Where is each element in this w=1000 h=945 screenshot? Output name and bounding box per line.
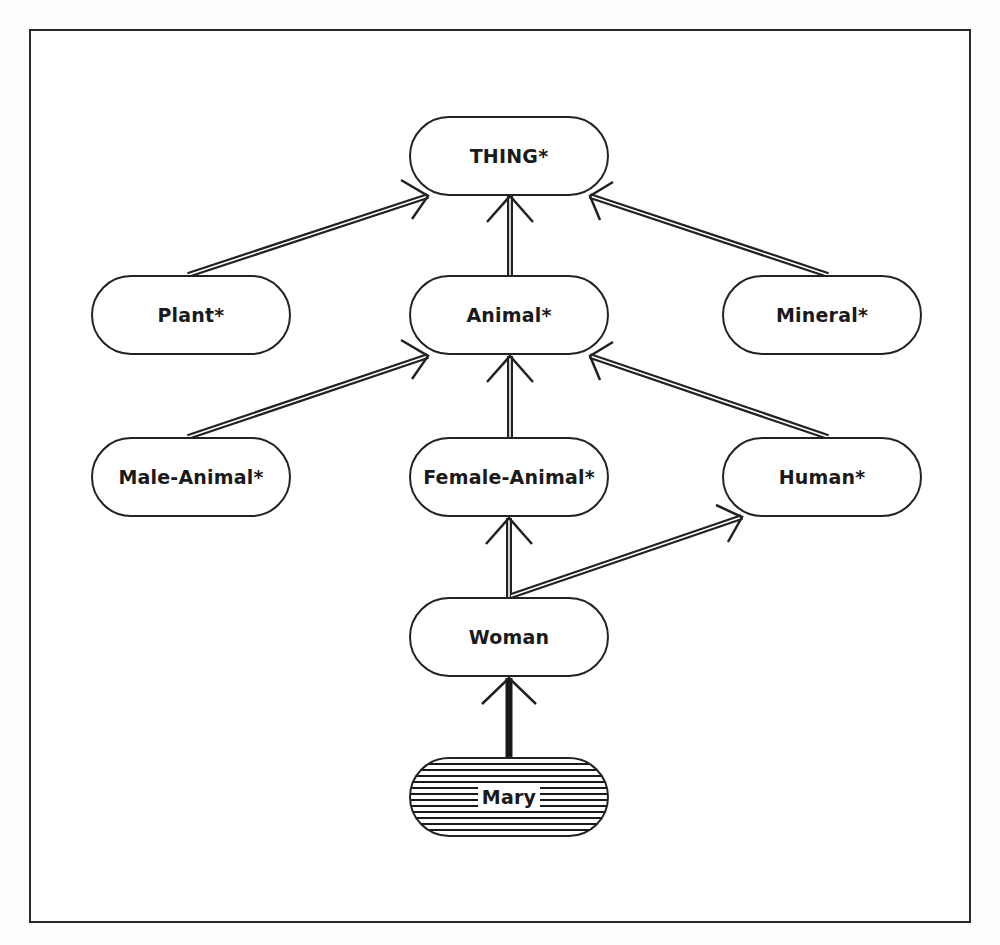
edge-female-animal-to-animal [487, 356, 533, 437]
edge-woman-to-female-animal [486, 518, 532, 597]
edge-mineral-to-thing [590, 182, 828, 275]
node-label: Mineral* [776, 304, 868, 326]
edge-mary-to-woman [482, 678, 536, 757]
node-label: THING* [470, 145, 549, 167]
node-label: Plant* [157, 304, 224, 326]
node-label: Animal* [466, 304, 551, 326]
node-mary[interactable]: Mary [409, 757, 609, 837]
edge-human-to-animal [590, 342, 828, 437]
node-plant[interactable]: Plant* [91, 275, 291, 355]
node-female-animal[interactable]: Female-Animal* [409, 437, 609, 517]
node-mineral[interactable]: Mineral* [722, 275, 922, 355]
node-thing[interactable]: THING* [409, 116, 609, 196]
node-label: Male-Animal* [118, 466, 263, 488]
edge-woman-to-human [511, 505, 742, 596]
node-label: Mary [478, 786, 540, 808]
node-label: Female-Animal* [423, 466, 595, 488]
node-human[interactable]: Human* [722, 437, 922, 517]
edge-plant-to-thing [188, 180, 428, 275]
node-label: Woman [469, 626, 549, 648]
node-woman[interactable]: Woman [409, 597, 609, 677]
edge-animal-to-thing [487, 196, 533, 275]
node-label: Human* [779, 466, 866, 488]
node-male-animal[interactable]: Male-Animal* [91, 437, 291, 517]
node-animal[interactable]: Animal* [409, 275, 609, 355]
